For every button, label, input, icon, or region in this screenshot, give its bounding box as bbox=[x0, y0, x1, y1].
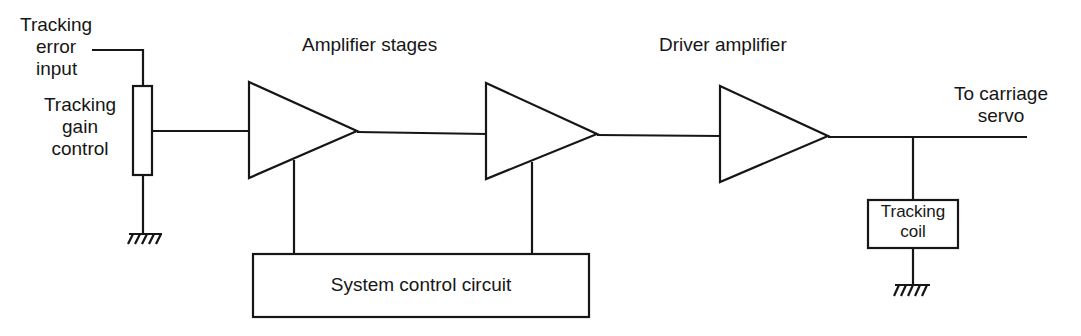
driver-amplifier-icon bbox=[720, 86, 828, 182]
label-amplifier-stages: Amplifier stages bbox=[302, 34, 437, 56]
label-line: Tracking bbox=[868, 202, 958, 222]
label-tracking-error-input: Tracking error input bbox=[20, 14, 120, 80]
label-line: control bbox=[28, 138, 132, 160]
amplifier-stage-1-icon bbox=[249, 82, 357, 178]
label-system-control-circuit: System control circuit bbox=[253, 274, 589, 296]
amplifier-stage-2-icon bbox=[486, 83, 597, 179]
tracking-gain-control-potentiometer bbox=[133, 86, 152, 175]
ground-icon bbox=[894, 285, 930, 296]
label-to-carriage-servo: To carriage servo bbox=[937, 83, 1065, 127]
label-driver-amplifier: Driver amplifier bbox=[659, 34, 787, 56]
label-line: Tracking bbox=[28, 94, 132, 116]
label-line: input bbox=[20, 58, 120, 80]
label-line: servo bbox=[937, 105, 1065, 127]
label-line: error bbox=[20, 36, 120, 58]
label-tracking-coil: Tracking coil bbox=[868, 202, 958, 242]
label-line: To carriage bbox=[937, 83, 1065, 105]
label-line: gain bbox=[28, 116, 132, 138]
amp2-driver-wire bbox=[597, 135, 721, 136]
amp1-amp2-wire bbox=[357, 132, 487, 134]
label-line: Tracking bbox=[20, 14, 120, 36]
ground-icon bbox=[128, 234, 162, 244]
label-tracking-gain-control: Tracking gain control bbox=[28, 94, 132, 160]
label-line: coil bbox=[868, 222, 958, 242]
